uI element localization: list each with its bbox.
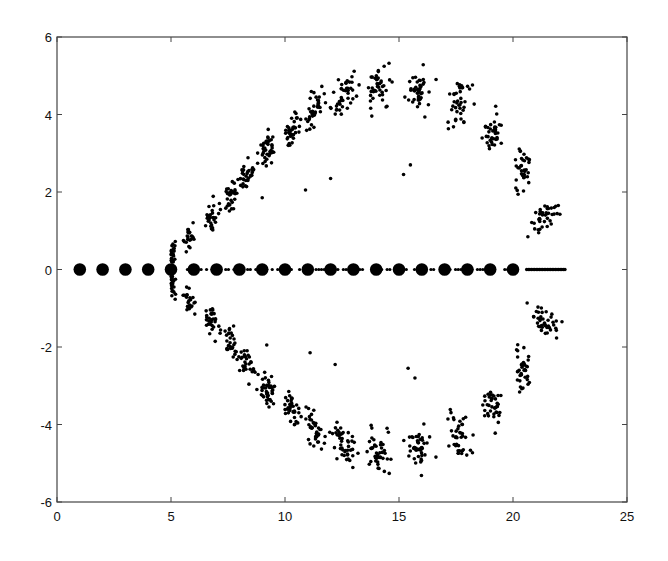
near-five-dot xyxy=(170,258,174,262)
perturbed-eigenvalue-dot xyxy=(408,435,412,439)
perturbed-eigenvalue-dot xyxy=(494,131,498,135)
exact-eigenvalue-marker xyxy=(438,263,451,276)
perturbed-eigenvalue-dot xyxy=(487,404,491,408)
perturbed-eigenvalue-dot xyxy=(308,415,312,419)
real-axis-dot xyxy=(476,268,479,271)
perturbed-eigenvalue-dot xyxy=(499,394,503,398)
perturbed-eigenvalue-dot xyxy=(486,135,490,139)
perturbed-eigenvalue-dot xyxy=(286,399,290,403)
perturbed-eigenvalue-dot xyxy=(555,336,559,340)
perturbed-eigenvalue-dot xyxy=(422,81,426,85)
perturbed-eigenvalue-dot xyxy=(188,238,192,242)
perturbed-eigenvalue-dot xyxy=(455,110,459,114)
perturbed-eigenvalue-dot xyxy=(427,90,431,94)
perturbed-eigenvalue-dot xyxy=(345,458,349,462)
perturbed-eigenvalue-dot xyxy=(493,143,497,147)
perturbed-eigenvalue-dot xyxy=(256,161,260,165)
perturbed-eigenvalue-dot xyxy=(204,224,208,228)
perturbed-eigenvalue-dot xyxy=(374,459,378,463)
perturbed-eigenvalue-dot xyxy=(293,422,297,426)
x-tick-label: 20 xyxy=(506,509,520,524)
real-axis-dot xyxy=(227,268,230,271)
perturbed-eigenvalue-dot xyxy=(308,97,312,101)
perturbed-eigenvalue-dot xyxy=(457,424,461,428)
perturbed-eigenvalue-dot xyxy=(355,94,359,98)
perturbed-eigenvalue-dot xyxy=(526,171,530,175)
perturbed-eigenvalue-dot xyxy=(536,316,540,320)
perturbed-eigenvalue-dot xyxy=(251,368,255,372)
perturbed-eigenvalue-dot xyxy=(377,467,381,471)
perturbed-eigenvalue-dot xyxy=(409,87,413,91)
perturbed-eigenvalue-dot xyxy=(367,86,371,90)
perturbed-eigenvalue-dot xyxy=(234,350,238,354)
real-axis-dot xyxy=(249,268,252,271)
perturbed-eigenvalue-dot xyxy=(560,320,564,324)
outlier-dot xyxy=(304,188,308,192)
perturbed-eigenvalue-dot xyxy=(226,204,230,208)
perturbed-eigenvalue-dot xyxy=(272,385,276,389)
perturbed-eigenvalue-dot xyxy=(379,443,383,447)
perturbed-eigenvalue-dot xyxy=(387,431,391,435)
perturbed-eigenvalue-dot xyxy=(446,120,450,124)
perturbed-eigenvalue-dot xyxy=(232,191,236,195)
perturbed-eigenvalue-dot xyxy=(376,463,380,467)
perturbed-eigenvalue-dot xyxy=(463,100,467,104)
perturbed-eigenvalue-dot xyxy=(538,228,542,232)
perturbed-eigenvalue-dot xyxy=(344,449,348,453)
perturbed-eigenvalue-dot xyxy=(499,123,503,127)
perturbed-eigenvalue-dot xyxy=(351,466,355,470)
perturbed-eigenvalue-dot xyxy=(520,373,524,377)
perturbed-eigenvalue-dot xyxy=(185,234,189,238)
perturbed-eigenvalue-dot xyxy=(225,339,229,343)
y-tick-label: 6 xyxy=(45,30,52,45)
perturbed-eigenvalue-dot xyxy=(514,164,518,168)
perturbed-eigenvalue-dot xyxy=(447,127,451,131)
perturbed-eigenvalue-dot xyxy=(487,144,491,148)
perturbed-eigenvalue-dot xyxy=(232,207,236,211)
outlier-dot xyxy=(402,173,406,177)
perturbed-eigenvalue-dot xyxy=(307,407,311,411)
perturbed-eigenvalue-dot xyxy=(316,104,320,108)
perturbed-eigenvalue-dot xyxy=(541,211,545,215)
perturbed-eigenvalue-dot xyxy=(268,152,272,156)
perturbed-eigenvalue-dot xyxy=(408,449,412,453)
perturbed-eigenvalue-dot xyxy=(381,85,385,89)
real-axis-dot xyxy=(342,268,345,271)
perturbed-eigenvalue-dot xyxy=(193,300,197,304)
perturbed-eigenvalue-dot xyxy=(191,236,195,240)
perturbed-eigenvalue-dot xyxy=(480,136,484,140)
perturbed-eigenvalue-dot xyxy=(304,117,308,121)
perturbed-eigenvalue-dot xyxy=(515,348,519,352)
perturbed-eigenvalue-dot xyxy=(262,147,266,151)
perturbed-eigenvalue-dot xyxy=(316,440,320,444)
perturbed-eigenvalue-dot xyxy=(232,337,236,341)
exact-eigenvalue-marker xyxy=(347,263,360,276)
perturbed-eigenvalue-dot xyxy=(239,350,243,354)
perturbed-eigenvalue-dot xyxy=(299,415,303,419)
perturbed-eigenvalue-dot xyxy=(380,91,384,95)
perturbed-eigenvalue-dot xyxy=(551,320,555,324)
perturbed-eigenvalue-dot xyxy=(339,112,343,116)
perturbed-eigenvalue-dot xyxy=(538,208,542,212)
perturbed-eigenvalue-dot xyxy=(457,103,461,107)
perturbed-eigenvalue-dot xyxy=(412,89,416,93)
perturbed-eigenvalue-dot xyxy=(545,212,549,216)
perturbed-eigenvalue-dot xyxy=(186,231,190,235)
perturbed-eigenvalue-dot xyxy=(267,384,271,388)
perturbed-eigenvalue-dot xyxy=(515,189,519,193)
perturbed-eigenvalue-dot xyxy=(454,444,458,448)
perturbed-eigenvalue-dot xyxy=(495,411,499,415)
perturbed-eigenvalue-dot xyxy=(452,416,456,420)
perturbed-eigenvalue-dot xyxy=(483,399,487,403)
perturbed-eigenvalue-dot xyxy=(244,367,248,371)
perturbed-eigenvalue-dot xyxy=(423,453,427,457)
perturbed-eigenvalue-dot xyxy=(449,411,453,415)
perturbed-eigenvalue-dot xyxy=(309,426,313,430)
perturbed-eigenvalue-dot xyxy=(204,309,208,313)
perturbed-eigenvalue-dot xyxy=(483,394,487,398)
perturbed-eigenvalue-dot xyxy=(367,462,371,466)
perturbed-eigenvalue-dot xyxy=(205,213,209,217)
x-tick-label: 5 xyxy=(167,509,174,524)
perturbed-eigenvalue-dot xyxy=(522,346,526,350)
perturbed-eigenvalue-dot xyxy=(414,461,418,465)
